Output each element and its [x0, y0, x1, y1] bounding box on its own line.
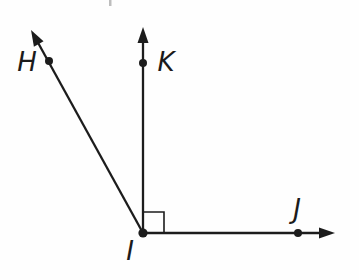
point-label-J: J [288, 194, 301, 224]
point-dot-I [138, 228, 147, 237]
geometry-figure: HKIJ [0, 0, 359, 280]
ray-IH [38, 42, 143, 233]
figure-canvas: HKIJ [0, 0, 359, 280]
ray-IJ-arrowhead [319, 228, 335, 239]
point-label-K: K [157, 47, 176, 77]
scan-artifact-top-tick [109, 0, 112, 6]
point-dot-K [139, 59, 147, 67]
point-label-I: I [126, 236, 134, 266]
ray-IH-arrowhead [31, 30, 44, 47]
point-dot-H [45, 57, 53, 65]
ray-IK-arrowhead [138, 27, 149, 43]
point-label-H: H [17, 47, 37, 77]
point-dot-J [294, 229, 302, 237]
